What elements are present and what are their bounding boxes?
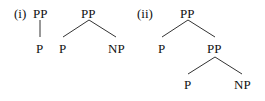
- node-pp: PP: [33, 7, 47, 20]
- node-pp: PP: [81, 7, 95, 20]
- edge: [215, 57, 242, 74]
- node-pp: PP: [207, 42, 221, 55]
- node-pp: PP: [180, 7, 194, 20]
- edge: [89, 20, 116, 37]
- node-p: P: [158, 42, 165, 55]
- syntax-tree-diagram: (i) PP P PP P NP (ii) PP P PP P NP: [0, 0, 265, 101]
- edge: [63, 20, 89, 37]
- edge: [188, 20, 215, 37]
- node-p: P: [59, 42, 66, 55]
- edge: [188, 57, 215, 74]
- edge: [162, 20, 188, 37]
- example-label-i: (i): [14, 7, 26, 20]
- example-label-ii: (ii): [137, 7, 153, 20]
- node-np: NP: [234, 78, 251, 91]
- node-p: P: [184, 78, 191, 91]
- node-p: P: [36, 42, 43, 55]
- node-np: NP: [108, 42, 125, 55]
